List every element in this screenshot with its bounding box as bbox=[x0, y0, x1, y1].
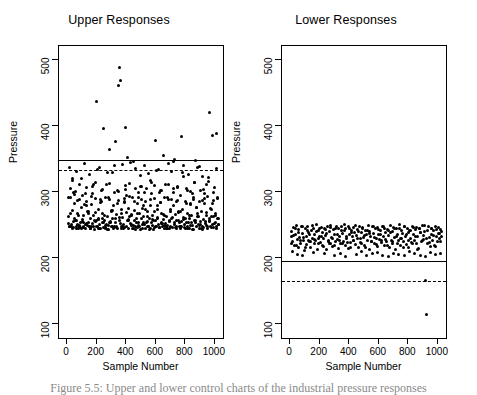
y-axis-tick bbox=[275, 257, 281, 258]
data-point bbox=[376, 251, 379, 254]
data-point bbox=[126, 156, 129, 159]
data-point bbox=[429, 245, 432, 248]
data-point bbox=[78, 183, 81, 186]
data-point bbox=[369, 235, 372, 238]
y-axis-tick bbox=[275, 191, 281, 192]
data-point bbox=[154, 139, 157, 142]
y-axis-tick-label: 300 bbox=[0, 184, 46, 195]
data-point bbox=[313, 238, 316, 241]
data-point bbox=[96, 168, 99, 171]
data-point bbox=[435, 228, 438, 231]
data-point bbox=[425, 237, 428, 240]
data-point bbox=[98, 223, 101, 226]
y-axis-title-upper: Pressure bbox=[6, 150, 20, 162]
data-point bbox=[80, 177, 83, 180]
data-point bbox=[205, 183, 208, 186]
data-point bbox=[365, 254, 368, 257]
y-axis-tick bbox=[52, 257, 58, 258]
data-point bbox=[91, 185, 94, 188]
data-point bbox=[321, 231, 324, 234]
data-point bbox=[199, 223, 202, 226]
data-point bbox=[143, 191, 146, 194]
data-point bbox=[197, 215, 200, 218]
y-axis-tick-label: 300 bbox=[223, 184, 269, 195]
x-axis-title-upper: Sample Number bbox=[58, 360, 223, 372]
data-point bbox=[153, 210, 156, 213]
data-point bbox=[82, 214, 85, 217]
data-point bbox=[178, 221, 181, 224]
data-point bbox=[123, 197, 126, 200]
data-point bbox=[328, 230, 331, 233]
data-point bbox=[297, 231, 300, 234]
data-point bbox=[411, 242, 414, 245]
y-axis-tick-label: 500 bbox=[0, 52, 46, 63]
data-point bbox=[333, 244, 336, 247]
data-point bbox=[199, 189, 202, 192]
data-point bbox=[181, 171, 184, 174]
data-point bbox=[318, 227, 321, 230]
data-point bbox=[304, 246, 307, 249]
data-point bbox=[137, 191, 140, 194]
data-point bbox=[434, 245, 437, 248]
y-axis-tick bbox=[52, 59, 58, 60]
data-point bbox=[167, 183, 170, 186]
data-point bbox=[172, 187, 175, 190]
y-axis-tick bbox=[52, 323, 58, 324]
data-point bbox=[409, 229, 412, 232]
data-point bbox=[127, 227, 130, 230]
data-point bbox=[309, 240, 312, 243]
data-point bbox=[102, 127, 105, 130]
data-point bbox=[419, 254, 422, 257]
plot-area-upper bbox=[58, 45, 224, 339]
data-point bbox=[112, 204, 115, 207]
data-point bbox=[155, 169, 158, 172]
data-point bbox=[384, 238, 387, 241]
data-point bbox=[389, 224, 392, 227]
data-point bbox=[389, 231, 392, 234]
data-point bbox=[349, 241, 352, 244]
data-point bbox=[179, 210, 182, 213]
data-point bbox=[93, 228, 96, 231]
y-axis-tick-label: 500 bbox=[223, 52, 269, 63]
data-point bbox=[211, 134, 214, 137]
data-point bbox=[361, 226, 364, 229]
data-point bbox=[397, 253, 400, 256]
data-point bbox=[308, 233, 311, 236]
y-axis-tick-label: 400 bbox=[0, 118, 46, 129]
data-point bbox=[292, 234, 295, 237]
data-point bbox=[415, 242, 418, 245]
data-point bbox=[82, 226, 85, 229]
y-axis-tick-label: 200 bbox=[223, 250, 269, 261]
data-point bbox=[201, 175, 204, 178]
data-point bbox=[176, 186, 179, 189]
data-point bbox=[217, 217, 220, 220]
data-point bbox=[413, 239, 416, 242]
data-point bbox=[313, 233, 316, 236]
data-point bbox=[71, 227, 74, 230]
data-point bbox=[296, 253, 299, 256]
x-axis-tick bbox=[407, 338, 408, 344]
data-point bbox=[97, 218, 100, 221]
data-point bbox=[208, 220, 211, 223]
data-point bbox=[323, 252, 326, 255]
data-point bbox=[200, 210, 203, 213]
data-point bbox=[146, 215, 149, 218]
data-point bbox=[106, 215, 109, 218]
data-point bbox=[434, 253, 437, 256]
data-point bbox=[94, 197, 97, 200]
data-point bbox=[194, 159, 197, 162]
data-point bbox=[337, 247, 340, 250]
data-point bbox=[205, 214, 208, 217]
data-point bbox=[153, 197, 156, 200]
data-point bbox=[439, 240, 442, 243]
data-point bbox=[125, 211, 128, 214]
data-point bbox=[100, 200, 103, 203]
data-point bbox=[77, 214, 80, 217]
data-point bbox=[312, 251, 315, 254]
figure-caption: Figure 5.5: Upper and lower control char… bbox=[0, 381, 477, 395]
data-point bbox=[115, 213, 118, 216]
data-point bbox=[156, 208, 159, 211]
data-point bbox=[416, 248, 419, 251]
data-point bbox=[141, 227, 144, 230]
data-point bbox=[405, 233, 408, 236]
